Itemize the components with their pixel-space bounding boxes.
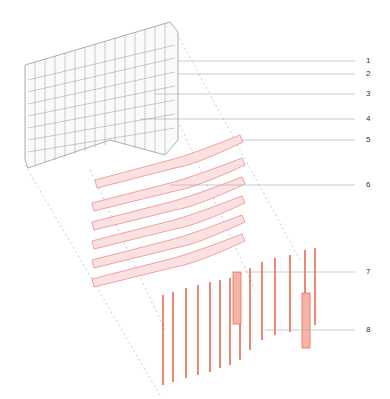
callout-2: 2 <box>366 69 370 78</box>
exploded-axonometric-diagram <box>0 0 390 399</box>
floor-slabs-layer <box>92 135 245 287</box>
vertical-fins-layer <box>163 248 315 385</box>
callout-7: 7 <box>366 267 370 276</box>
callout-1: 1 <box>366 56 370 65</box>
facade-grid-layer <box>25 22 178 168</box>
callout-5: 5 <box>366 135 370 144</box>
callout-8: 8 <box>366 325 370 334</box>
callout-4: 4 <box>366 114 370 123</box>
callout-3: 3 <box>366 89 370 98</box>
callout-6: 6 <box>366 180 370 189</box>
